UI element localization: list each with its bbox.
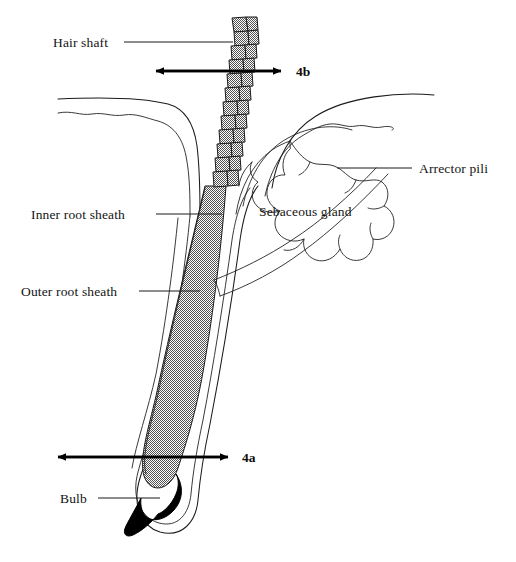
text-labels: Hair shaft Inner root sheath Outer root … [21, 35, 488, 506]
section-label-4b: 4b [296, 64, 310, 79]
sebaceous-gland [236, 127, 394, 261]
label-sebaceous-gland: Sebaceous gland [259, 204, 352, 219]
inner-root-sheath [143, 186, 226, 488]
label-inner-root-sheath: Inner root sheath [31, 207, 125, 222]
label-bulb: Bulb [60, 491, 87, 506]
label-arrector-pili: Arrector pili [419, 161, 488, 176]
diagram-canvas: 4b 4a Hair shaft Inner root sheath Outer… [0, 0, 516, 562]
hair-follicle-figure: 4b 4a Hair shaft Inner root sheath Outer… [0, 0, 516, 562]
arrector-pili-muscle [214, 168, 388, 296]
label-hair-shaft: Hair shaft [53, 35, 108, 50]
label-outer-root-sheath: Outer root sheath [21, 284, 117, 299]
leader-lines [98, 42, 412, 498]
section-label-4a: 4a [242, 450, 256, 465]
